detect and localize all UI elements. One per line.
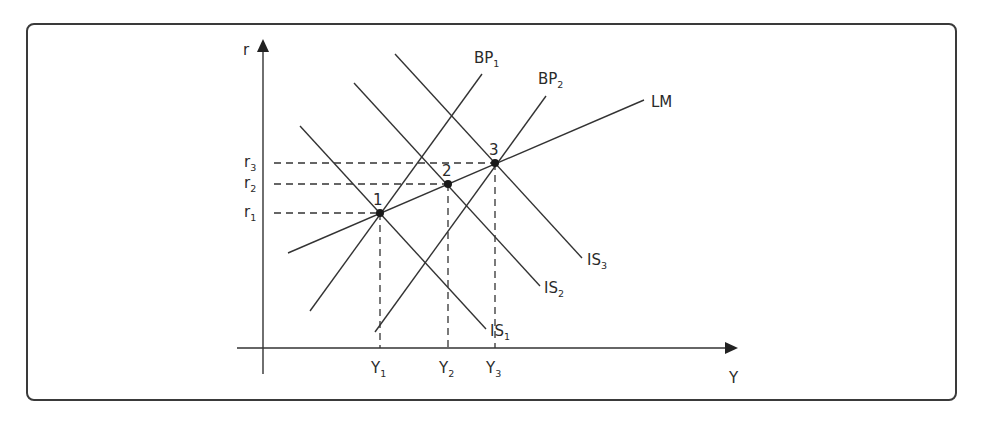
guide-lines (274, 163, 495, 348)
equilibrium-point-2 (444, 180, 452, 188)
is-lm-bp-diagram: r Y BP1 BP2 LM IS1 IS2 IS3 1 2 3 r1 r2 r… (0, 0, 981, 421)
x-axis-label: Y (728, 369, 739, 387)
point-2-label: 2 (442, 162, 452, 180)
lm-label: LM (651, 93, 672, 111)
x-axis-arrow-icon (725, 342, 738, 354)
lm-curve (288, 100, 644, 253)
equilibrium-point-3 (491, 159, 499, 167)
y1-label: Y1 (370, 359, 386, 379)
point-1-label: 1 (373, 191, 383, 209)
is3-label: IS3 (587, 251, 607, 271)
is2-label: IS2 (544, 279, 564, 299)
y3-label: Y3 (485, 359, 501, 379)
bp2-curve (375, 96, 546, 332)
is1-label: IS1 (490, 322, 510, 342)
r3-label: r3 (244, 153, 256, 173)
y-axis-arrow-icon (257, 39, 269, 52)
r1-label: r1 (244, 203, 256, 223)
bp1-curve (310, 74, 482, 311)
bp2-label: BP2 (538, 70, 563, 90)
equilibrium-point-1 (376, 209, 384, 217)
r2-label: r2 (244, 174, 256, 194)
bp1-label: BP1 (474, 49, 499, 69)
y2-label: Y2 (438, 359, 454, 379)
is1-curve (300, 126, 486, 329)
point-3-label: 3 (489, 141, 499, 159)
y-axis-label: r (243, 41, 250, 59)
diagram-frame (27, 24, 956, 400)
